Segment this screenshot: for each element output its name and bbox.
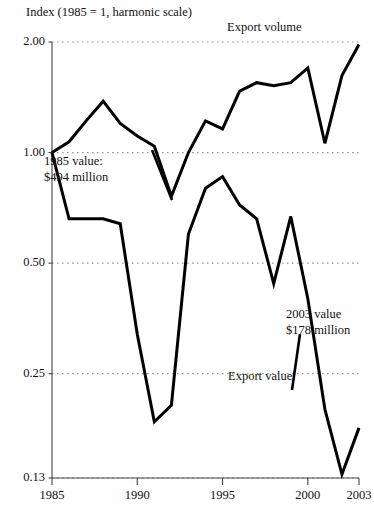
y-tick-label-0.13: 0.13 — [0, 471, 45, 484]
chart-container: Index (1985 = 1, harmonic scale) 2.001.0… — [0, 0, 374, 514]
end-value-annotation: 2003 value $178 million — [286, 307, 350, 338]
y-tick-label-2.00: 2.00 — [0, 35, 45, 48]
end-value-leader — [292, 334, 300, 390]
value-series-label: Export value — [228, 369, 292, 385]
axes-group — [49, 42, 360, 478]
x-tick-label-1990: 1990 — [125, 489, 150, 502]
y-tick-label-0.50: 0.50 — [0, 256, 45, 269]
x-tick-label-1995: 1995 — [210, 489, 235, 502]
y-tick-label-1.00: 1.00 — [0, 146, 45, 159]
start-value-leader — [152, 150, 172, 200]
x-axis-ticks-group — [52, 478, 359, 485]
line-chart-plot — [0, 0, 374, 514]
volume-series-label: Export volume — [227, 20, 302, 36]
x-tick-label-2003: 2003 — [347, 489, 372, 502]
start-value-annotation: 1985 value: $494 million — [44, 154, 108, 185]
series-lines-group — [52, 44, 359, 474]
end-value-annotation-line2: $178 million — [286, 323, 350, 339]
start-value-annotation-line1: 1985 value: — [44, 154, 108, 170]
x-tick-label-2000: 2000 — [295, 489, 320, 502]
chart-axis-title: Index (1985 = 1, harmonic scale) — [26, 5, 192, 20]
end-value-annotation-line1: 2003 value — [286, 307, 350, 323]
start-value-annotation-line2: $494 million — [44, 170, 108, 186]
x-tick-label-1985: 1985 — [40, 489, 65, 502]
y-tick-label-0.25: 0.25 — [0, 367, 45, 380]
